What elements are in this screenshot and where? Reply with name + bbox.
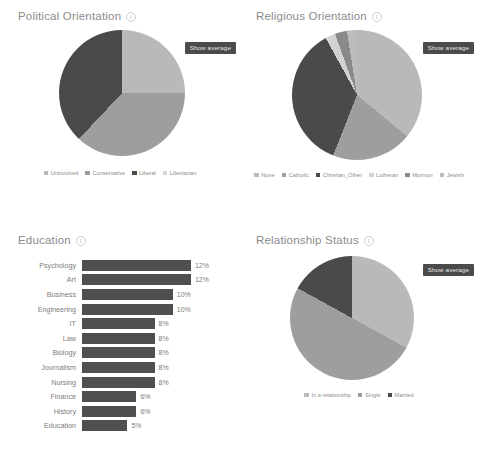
bar-track: 8% (82, 331, 238, 346)
bar-row-label: Business (2, 290, 82, 299)
bar-row-label: Education (2, 421, 82, 430)
pie-chart-relationship[interactable] (290, 256, 414, 380)
bar-row[interactable]: Biology8% (2, 346, 238, 361)
panel-title-relationship-text: Relationship Status (256, 234, 359, 246)
bar-fill (82, 274, 191, 285)
bar-row-label: Finance (2, 392, 82, 401)
bar-fill (82, 347, 155, 358)
legend-item[interactable]: Single (358, 392, 381, 398)
legend-political: UninvolvedConservativeLiberalLibertarian (2, 170, 238, 176)
bar-row-label: Psychology (2, 261, 82, 270)
bar-fill (82, 377, 155, 388)
bar-row-label: Biology (2, 348, 82, 357)
panel-title-relationship: Relationship Status (240, 226, 478, 246)
pie-chart-religious[interactable] (292, 30, 422, 160)
bar-value-label: 5% (127, 422, 141, 429)
bar-row[interactable]: Education5% (2, 419, 238, 434)
legend-item-label: Catholic (289, 172, 309, 178)
bar-track: 8% (82, 346, 238, 361)
bar-row-label: IT (2, 319, 82, 328)
legend-item[interactable]: Conservative (85, 170, 125, 176)
legend-swatch-icon (85, 171, 90, 176)
panel-relationship-status: Relationship Status Show average In a re… (240, 226, 478, 475)
bar-row[interactable]: Psychology12% (2, 258, 238, 273)
legend-item[interactable]: In a relationship (304, 392, 351, 398)
bar-track: 8% (82, 316, 238, 331)
info-icon[interactable] (76, 236, 86, 246)
legend-religious: NoneCatholicChristian_OtherLutheranMormo… (240, 172, 478, 178)
bar-row[interactable]: Engineering10% (2, 302, 238, 317)
legend-item-label: In a relationship (311, 392, 351, 398)
bar-value-label: 6% (136, 393, 150, 400)
legend-swatch-icon (254, 173, 259, 178)
bar-track: 12% (82, 273, 238, 288)
legend-item-label: Married (395, 392, 414, 398)
legend-swatch-icon (358, 393, 363, 398)
legend-item[interactable]: Catholic (282, 172, 309, 178)
bar-value-label: 12% (191, 276, 209, 283)
bar-value-label: 8% (155, 349, 169, 356)
legend-item[interactable]: None (254, 172, 274, 178)
legend-item-label: Jewish (447, 172, 464, 178)
panel-title-political: Political Orientation (2, 2, 238, 22)
legend-item-label: Uninvolved (51, 170, 79, 176)
bar-value-label: 12% (191, 262, 209, 269)
legend-item-label: Conservative (92, 170, 125, 176)
bar-value-label: 8% (155, 379, 169, 386)
legend-swatch-icon (369, 173, 374, 178)
legend-swatch-icon (44, 171, 49, 176)
bar-row-label: Journalism (2, 363, 82, 372)
bar-row[interactable]: Art12% (2, 273, 238, 288)
bar-value-label: 10% (173, 291, 191, 298)
info-icon[interactable] (364, 236, 374, 246)
bar-fill (82, 362, 155, 373)
bar-row[interactable]: Journalism8% (2, 360, 238, 375)
show-average-button-relationship[interactable]: Show average (423, 264, 474, 276)
bar-row[interactable]: Nursing8% (2, 375, 238, 390)
legend-item-label: Christian_Other (323, 172, 362, 178)
bar-track: 5% (82, 419, 238, 434)
panel-title-religious-text: Religious Orientation (256, 10, 367, 22)
panel-title-religious: Religious Orientation (240, 2, 478, 22)
legend-item-label: Single (365, 392, 381, 398)
legend-swatch-icon (304, 393, 309, 398)
legend-item[interactable]: Uninvolved (44, 170, 79, 176)
info-icon[interactable] (126, 12, 136, 22)
legend-item[interactable]: Lutheran (369, 172, 398, 178)
bar-row-label: Law (2, 334, 82, 343)
legend-item[interactable]: Christian_Other (316, 172, 362, 178)
legend-item[interactable]: Married (388, 392, 414, 398)
bar-chart-education: Psychology12%Art12%Business10%Engineerin… (2, 258, 238, 433)
bar-row[interactable]: Finance6% (2, 389, 238, 404)
bar-value-label: 8% (155, 335, 169, 342)
legend-item[interactable]: Libertarian (163, 170, 196, 176)
panel-religious-orientation: Religious Orientation Show average NoneC… (240, 2, 478, 230)
show-average-button-religious[interactable]: Show average (423, 42, 474, 54)
dashboard-grid: Political Orientation Show average Uninv… (0, 0, 478, 475)
legend-swatch-icon (163, 171, 168, 176)
bar-row[interactable]: IT8% (2, 316, 238, 331)
bar-row[interactable]: Business10% (2, 287, 238, 302)
show-average-button-political[interactable]: Show average (185, 42, 236, 54)
bar-value-label: 10% (173, 306, 191, 313)
legend-item[interactable]: Mormon (405, 172, 433, 178)
legend-swatch-icon (316, 173, 321, 178)
panel-education: Education Psychology12%Art12%Business10%… (2, 226, 238, 475)
pie-chart-political[interactable] (59, 30, 185, 156)
legend-item-label: None (261, 172, 274, 178)
panel-political-orientation: Political Orientation Show average Uninv… (2, 2, 238, 230)
legend-swatch-icon (440, 173, 445, 178)
bar-row[interactable]: History6% (2, 404, 238, 419)
bar-fill (82, 420, 127, 431)
bar-track: 12% (82, 258, 238, 273)
panel-title-education-text: Education (18, 234, 71, 246)
legend-swatch-icon (132, 171, 137, 176)
legend-item[interactable]: Liberal (132, 170, 156, 176)
legend-item[interactable]: Jewish (440, 172, 464, 178)
bar-row[interactable]: Law8% (2, 331, 238, 346)
bar-value-label: 8% (155, 320, 169, 327)
panel-title-education: Education (2, 226, 238, 246)
info-icon[interactable] (372, 12, 382, 22)
bar-track: 8% (82, 360, 238, 375)
bar-row-label: Nursing (2, 378, 82, 387)
